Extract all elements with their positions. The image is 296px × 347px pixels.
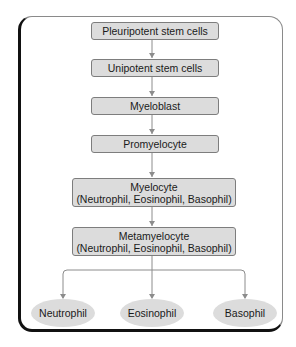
output-neutrophil: Neutrophil: [31, 299, 95, 327]
output-basophil: Basophil: [213, 299, 277, 327]
node-pluripotent-stem-cells: Pleuripotent stem cells: [91, 22, 219, 40]
node-label: Promyelocyte: [123, 138, 187, 150]
node-myelocyte: Myelocyte (Neutrophil, Eosinophil, Basop…: [72, 178, 236, 207]
node-sublabel: (Neutrophil, Eosinophil, Basophil): [76, 242, 231, 254]
node-label: Myeloblast: [130, 100, 180, 112]
output-label: Basophil: [225, 307, 265, 319]
node-label: Pleuripotent stem cells: [102, 25, 208, 37]
connector-arrows: [0, 0, 296, 347]
node-unipotent-stem-cells: Unipotent stem cells: [91, 59, 219, 77]
node-metamyelocyte: Metamyelocyte (Neutrophil, Eosinophil, B…: [72, 227, 236, 256]
output-label: Neutrophil: [39, 307, 87, 319]
node-label: Metamyelocyte: [119, 230, 190, 242]
output-eosinophil: Eosinophil: [120, 299, 184, 327]
node-label: Myelocyte: [130, 181, 177, 193]
output-label: Eosinophil: [128, 307, 176, 319]
node-label: Unipotent stem cells: [108, 62, 203, 74]
node-sublabel: (Neutrophil, Eosinophil, Basophil): [76, 193, 231, 205]
node-promyelocyte: Promyelocyte: [91, 135, 219, 153]
node-myeloblast: Myeloblast: [91, 97, 219, 115]
